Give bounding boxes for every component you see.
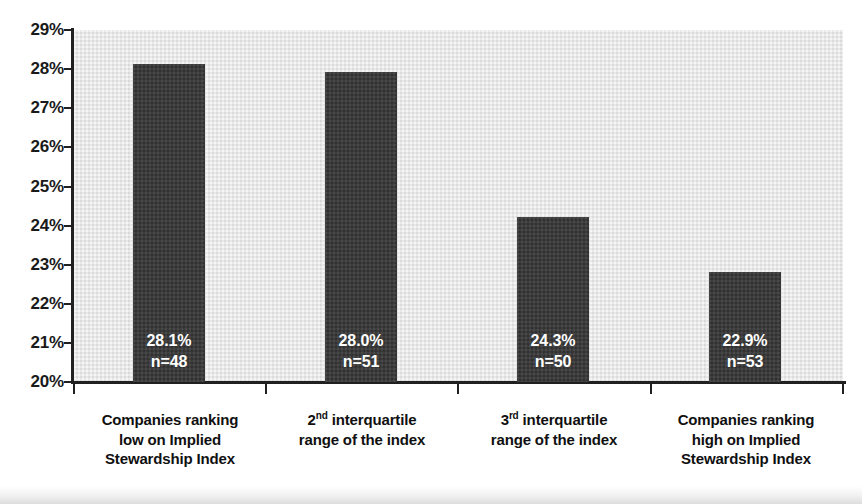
ordinal-number: 2 [308, 411, 316, 428]
category-label-line: high on Implied [650, 430, 842, 450]
y-tick-label: 24% [31, 216, 64, 236]
y-tick-label: 20% [31, 372, 64, 392]
bar-n-label: n=51 [325, 352, 397, 372]
bar-n-label: n=48 [133, 352, 205, 372]
category-label-rest: interquartile [328, 411, 417, 428]
y-axis-line [71, 28, 74, 384]
category-label-line: range of the index [458, 430, 650, 450]
bar-value-label: 28.0% [325, 331, 397, 351]
category-label-4: Companies ranking high on Implied Stewar… [650, 410, 842, 469]
bar-value-label: 28.1% [133, 331, 205, 351]
bar-chart: 29% 28% 27% 26% 25% 24% 23% 22% 21% 20% … [0, 0, 862, 504]
y-tick-label: 22% [31, 294, 64, 314]
bar-label-group: 28.1% n=48 [133, 331, 205, 372]
bar-1: 28.1% n=48 [133, 64, 205, 382]
x-tick-mark [650, 384, 652, 394]
y-tick-label: 26% [31, 137, 64, 157]
bar-3: 24.3% n=50 [517, 217, 589, 382]
ordinal-suffix: nd [316, 410, 328, 421]
y-tick-label: 28% [31, 59, 64, 79]
y-tick-label: 29% [31, 20, 64, 40]
category-label-line: Stewardship Index [650, 449, 842, 469]
bar-2: 28.0% n=51 [325, 72, 397, 382]
y-tick-label: 23% [31, 255, 64, 275]
category-label-line: Companies ranking [650, 410, 842, 430]
bar-label-group: 24.3% n=50 [517, 331, 589, 372]
category-label-line: range of the index [266, 430, 458, 450]
x-tick-mark [842, 384, 844, 394]
category-label-line: Companies ranking [74, 410, 266, 430]
y-tick-label: 21% [31, 333, 64, 353]
ordinal-number: 3 [501, 411, 509, 428]
bar-4: 22.9% n=53 [709, 272, 781, 382]
x-tick-mark [457, 384, 459, 394]
category-label-1: Companies ranking low on Implied Steward… [74, 410, 266, 469]
bar-value-label: 22.9% [709, 331, 781, 351]
bar-n-label: n=53 [709, 352, 781, 372]
category-label-line: 2nd interquartile [266, 410, 458, 430]
category-label-rest: interquartile [519, 411, 608, 428]
bar-value-label: 24.3% [517, 331, 589, 351]
page-scan-edge [0, 486, 862, 504]
y-tick-label: 27% [31, 98, 64, 118]
y-tick-label: 25% [31, 177, 64, 197]
ordinal-suffix: rd [509, 410, 519, 421]
category-label-line: Stewardship Index [74, 449, 266, 469]
x-tick-mark [73, 384, 75, 394]
y-axis: 29% 28% 27% 26% 25% 24% 23% 22% 21% 20% [0, 0, 70, 504]
x-tick-mark [265, 384, 267, 394]
category-label-line: low on Implied [74, 430, 266, 450]
bar-n-label: n=50 [517, 352, 589, 372]
category-label-3: 3rd interquartile range of the index [458, 410, 650, 449]
bar-label-group: 22.9% n=53 [709, 331, 781, 372]
category-label-line: 3rd interquartile [458, 410, 650, 430]
category-label-2: 2nd interquartile range of the index [266, 410, 458, 449]
bar-label-group: 28.0% n=51 [325, 331, 397, 372]
